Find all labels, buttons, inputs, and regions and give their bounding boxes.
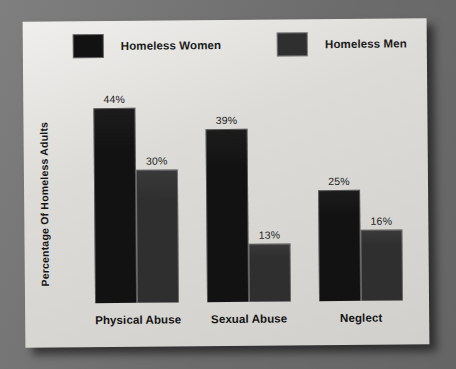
bar-physical-abuse-men — [136, 169, 179, 303]
bar-wrap-physical-abuse-women: 44% — [93, 81, 137, 303]
bar-sexual-abuse-women — [206, 129, 250, 303]
bar-wrap-physical-abuse-men: 30% — [135, 80, 179, 302]
chart-card: Homeless Women Homeless Men Percentage O… — [23, 18, 430, 348]
bar-neglect-men — [360, 229, 403, 300]
bar-group-bars: 44% 30% — [93, 80, 179, 303]
legend-label-homeless-men: Homeless Men — [325, 37, 407, 50]
bar-sexual-abuse-men — [249, 244, 292, 302]
legend-item-homeless-women: Homeless Women — [73, 33, 221, 58]
chart-legend: Homeless Women Homeless Men — [23, 31, 427, 59]
legend-label-homeless-women: Homeless Women — [121, 39, 221, 52]
bar-neglect-women — [318, 190, 361, 301]
x-axis-label-physical-abuse: Physical Abuse — [95, 313, 179, 326]
bar-group-neglect: 25% 16% Neglect — [317, 78, 403, 301]
x-axis-label-sexual-abuse: Sexual Abuse — [207, 312, 291, 325]
bar-wrap-neglect-men: 16% — [359, 78, 403, 300]
legend-swatch-icon-women — [73, 34, 104, 58]
bar-wrap-sexual-abuse-men: 13% — [247, 79, 291, 301]
bar-groups: 44% 30% Physical Abuse 39% — [71, 78, 415, 303]
bar-value-label: 30% — [146, 154, 168, 166]
bar-group-bars: 25% 16% — [317, 78, 403, 301]
bar-value-label: 39% — [216, 114, 238, 126]
bar-group-physical-abuse: 44% 30% Physical Abuse — [93, 80, 179, 303]
bar-group-bars: 39% 13% — [205, 79, 291, 302]
legend-item-homeless-men: Homeless Men — [277, 31, 407, 56]
bar-value-label: 25% — [328, 175, 350, 187]
bar-value-label: 16% — [370, 215, 392, 227]
legend-swatch-icon-men — [277, 32, 308, 56]
y-axis-title: Percentage Of Homeless Adults — [37, 110, 51, 300]
bar-wrap-sexual-abuse-women: 39% — [205, 80, 249, 302]
bar-value-label: 13% — [259, 229, 281, 241]
bar-physical-abuse-women — [93, 107, 137, 303]
bar-value-label: 44% — [103, 93, 125, 105]
x-axis-label-neglect: Neglect — [319, 311, 403, 324]
bar-wrap-neglect-women: 25% — [317, 79, 361, 301]
bar-group-sexual-abuse: 39% 13% Sexual Abuse — [205, 79, 291, 302]
plot-area: 44% 30% Physical Abuse 39% — [71, 78, 415, 303]
